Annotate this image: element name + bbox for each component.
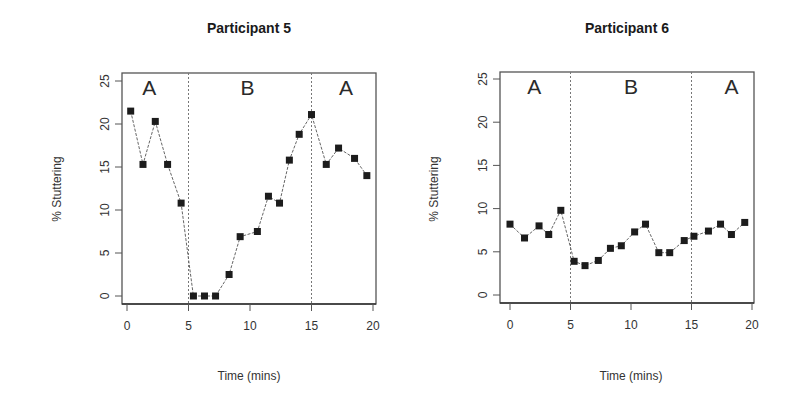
data-point — [296, 131, 303, 138]
data-point — [265, 193, 272, 200]
figure: Participant 5 Time (mins) % Stuttering 0… — [0, 0, 804, 398]
data-point — [212, 293, 219, 300]
y-tick-label: 20 — [98, 117, 112, 131]
data-point — [571, 258, 578, 265]
data-point — [545, 231, 552, 238]
data-point — [178, 200, 185, 207]
data-point — [363, 172, 370, 179]
data-line — [510, 210, 745, 265]
data-point — [728, 231, 735, 238]
data-point — [351, 155, 358, 162]
x-tick-label: 10 — [624, 318, 638, 332]
y-axis-label: % Stuttering — [427, 156, 441, 221]
data-point — [607, 245, 614, 252]
data-point — [666, 249, 673, 256]
data-point — [521, 234, 528, 241]
phase-label: A — [724, 75, 738, 98]
plot-frame — [500, 72, 754, 303]
y-tick-label: 10 — [476, 202, 490, 216]
x-tick-label: 5 — [567, 318, 574, 332]
phase-label: A — [527, 75, 541, 98]
data-point — [323, 161, 330, 168]
chart-title: Participant 5 — [207, 20, 291, 36]
y-tick-label: 15 — [476, 158, 490, 172]
data-point — [276, 200, 283, 207]
data-point — [536, 222, 543, 229]
y-tick-label: 25 — [476, 72, 490, 86]
data-point — [190, 293, 197, 300]
data-point — [618, 242, 625, 249]
x-tick-label: 15 — [305, 319, 319, 333]
x-tick-label: 0 — [507, 318, 514, 332]
plot-frame — [122, 73, 376, 304]
x-axis-label: Time (mins) — [600, 369, 663, 383]
x-tick-label: 20 — [745, 318, 759, 332]
data-point — [642, 221, 649, 228]
data-point — [582, 262, 589, 269]
data-point — [717, 221, 724, 228]
data-point — [335, 145, 342, 152]
data-point — [127, 108, 134, 115]
phase-label: B — [624, 75, 638, 98]
data-point — [705, 228, 712, 235]
data-point — [507, 221, 514, 228]
data-point — [631, 228, 638, 235]
data-point — [152, 118, 159, 125]
y-axis-label: % Stuttering — [50, 156, 64, 221]
panel-participant-6: Participant 6 Time (mins) % Stuttering 0… — [427, 20, 759, 383]
phase-label: B — [241, 76, 255, 99]
phase-label: A — [339, 76, 353, 99]
data-point — [286, 157, 293, 164]
plot-area: 051015200510152025ABA — [98, 73, 380, 333]
y-tick-label: 5 — [98, 249, 112, 256]
y-tick-label: 0 — [476, 291, 490, 298]
panel-participant-5: Participant 5 Time (mins) % Stuttering 0… — [50, 20, 380, 383]
data-point — [237, 233, 244, 240]
data-point — [690, 233, 697, 240]
phase-label: A — [142, 76, 156, 99]
data-point — [164, 161, 171, 168]
y-tick-label: 0 — [98, 292, 112, 299]
data-point — [681, 237, 688, 244]
x-axis-label: Time (mins) — [218, 369, 281, 383]
data-point — [557, 207, 564, 214]
x-tick-label: 0 — [124, 319, 131, 333]
data-point — [254, 228, 261, 235]
x-tick-label: 20 — [366, 319, 380, 333]
chart-title: Participant 6 — [585, 20, 669, 36]
data-point — [139, 161, 146, 168]
data-point — [655, 249, 662, 256]
data-point — [226, 271, 233, 278]
x-tick-label: 5 — [185, 319, 192, 333]
data-point — [595, 257, 602, 264]
data-line — [131, 111, 367, 296]
data-point — [308, 111, 315, 118]
data-point — [741, 219, 748, 226]
y-tick-label: 20 — [476, 115, 490, 129]
x-tick-label: 15 — [685, 318, 699, 332]
y-tick-label: 15 — [98, 160, 112, 174]
data-point — [201, 293, 208, 300]
y-tick-label: 25 — [98, 74, 112, 88]
y-tick-label: 10 — [98, 203, 112, 217]
x-tick-label: 10 — [243, 319, 257, 333]
y-tick-label: 5 — [476, 248, 490, 255]
plot-area: 051015200510152025ABA — [476, 72, 759, 332]
